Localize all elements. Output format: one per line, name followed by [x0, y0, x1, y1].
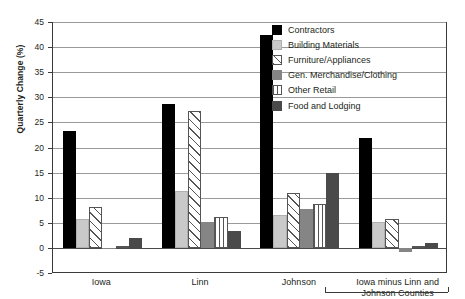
legend-item-label: Gen. Merchandise/Clothing: [288, 70, 397, 80]
legend-swatch-icon: [272, 25, 282, 35]
x-axis-group-label-line: Linn: [150, 277, 250, 289]
bar: [326, 173, 339, 248]
bar: [102, 248, 115, 250]
bar: [162, 104, 175, 248]
group-brace: [325, 292, 448, 293]
y-axis-tick-label: 35: [0, 67, 48, 77]
legend-item-label: Other Retail: [288, 85, 336, 95]
bar: [399, 248, 412, 252]
y-axis-tick-label: 30: [0, 92, 48, 102]
bar: [425, 243, 438, 248]
y-axis-tick-label: 10: [0, 193, 48, 203]
bar: [63, 131, 76, 248]
x-axis-group-label-line: Iowa minus Linn and: [333, 277, 463, 288]
legend-item: Furniture/Appliances: [272, 52, 447, 67]
y-axis-tick-label: 0: [0, 243, 48, 253]
legend-item-label: Building Materials: [288, 40, 359, 50]
bar: [175, 191, 188, 248]
bar: [116, 246, 129, 248]
y-axis-tick-label: 25: [0, 117, 48, 127]
x-axis-group-label-line: Johnson Counties: [333, 288, 463, 299]
bar: [385, 219, 398, 248]
x-axis-group-label-line: Iowa: [51, 277, 151, 289]
x-axis-group-label: Iowa: [51, 277, 151, 289]
y-axis-tick-label: -5: [0, 268, 48, 278]
bar: [214, 217, 227, 248]
bar: [359, 138, 372, 247]
y-axis-tick-label: 45: [0, 17, 48, 27]
legend-swatch-icon: [272, 55, 282, 65]
y-axis-tick-label: 5: [0, 218, 48, 228]
bar: [76, 219, 89, 248]
bar: [372, 222, 385, 248]
x-axis-group-label: Linn: [150, 277, 250, 289]
y-axis-tick-mark: [48, 273, 52, 274]
legend-item: Food and Lodging: [272, 98, 447, 113]
x-axis-group-label: Iowa minus Linn andJohnson Counties: [333, 277, 463, 299]
legend-swatch-icon: [272, 101, 282, 111]
legend-item: Other Retail: [272, 83, 447, 98]
legend-swatch-icon: [272, 70, 282, 80]
legend-item-label: Furniture/Appliances: [288, 55, 371, 65]
bar: [89, 207, 102, 248]
legend-item-label: Contractors: [288, 25, 335, 35]
y-axis-tick-label: 15: [0, 168, 48, 178]
bar: [201, 222, 214, 248]
legend-item-label: Food and Lodging: [288, 101, 361, 111]
legend-item: Gen. Merchandise/Clothing: [272, 68, 447, 83]
bar: [228, 231, 241, 248]
y-axis-tick-label: 20: [0, 143, 48, 153]
legend-swatch-icon: [272, 85, 282, 95]
y-axis-tick-label: 40: [0, 42, 48, 52]
bar: [300, 209, 313, 248]
bar: [273, 215, 286, 248]
bar: [412, 246, 425, 248]
group-brace-tick: [325, 287, 326, 292]
bar: [313, 204, 326, 248]
legend-swatch-icon: [272, 40, 282, 50]
bar: [129, 238, 142, 248]
legend-item: Contractors: [272, 22, 447, 37]
bar: [287, 193, 300, 248]
bar: [188, 111, 201, 248]
chart-legend: ContractorsBuilding MaterialsFurniture/A…: [272, 22, 447, 113]
group-brace-tick: [448, 287, 449, 292]
legend-item: Building Materials: [272, 37, 447, 52]
